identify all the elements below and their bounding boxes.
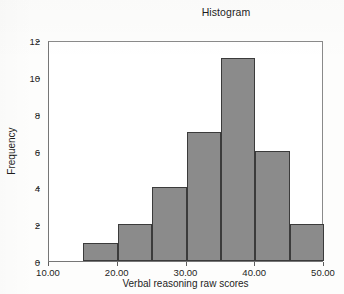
y-tick-label: 4: [6, 183, 40, 194]
y-tick-label: 2: [6, 220, 40, 231]
x-tick-label: 40.00: [229, 267, 279, 278]
x-tick-label: 50.00: [298, 267, 344, 278]
x-tick-mark: [117, 262, 118, 266]
x-tick-mark: [186, 262, 187, 266]
histogram-bar: [152, 187, 186, 261]
x-tick-label: 30.00: [161, 267, 211, 278]
plot-area: [48, 41, 323, 262]
y-axis-ticks: 024681012: [0, 41, 40, 262]
histogram-bar: [255, 151, 289, 262]
y-tick-label: 0: [6, 257, 40, 268]
histogram-bar: [290, 224, 324, 261]
chart-title: Histogram: [48, 6, 344, 18]
y-tick-label: 12: [6, 36, 40, 47]
x-tick-mark: [48, 262, 49, 266]
x-axis-title: Verbal reasoning raw scores: [48, 278, 323, 289]
y-tick-label: 8: [6, 109, 40, 120]
y-tick-label: 6: [6, 146, 40, 157]
histogram-bar: [187, 132, 221, 261]
x-tick-label: 20.00: [92, 267, 142, 278]
y-tick-label: 10: [6, 72, 40, 83]
bar-series: [49, 42, 322, 261]
histogram-figure: Histogram Frequency 024681012 10.0020.00…: [0, 0, 344, 294]
histogram-bar: [83, 243, 117, 261]
histogram-bar: [118, 224, 152, 261]
histogram-bar: [221, 58, 255, 261]
x-tick-mark: [254, 262, 255, 266]
x-tick-label: 10.00: [23, 267, 73, 278]
x-tick-mark: [323, 262, 324, 266]
